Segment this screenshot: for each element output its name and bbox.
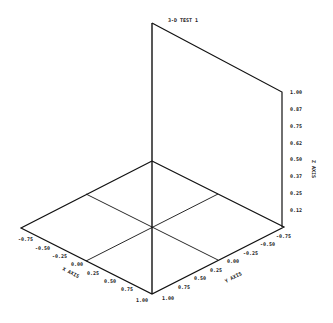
- svg-text:-0.75: -0.75: [18, 236, 33, 242]
- svg-text:0.75: 0.75: [290, 123, 302, 129]
- svg-text:0.25: 0.25: [210, 267, 222, 273]
- svg-text:1.00: 1.00: [136, 297, 148, 303]
- x-tick-labels: -0.75 -0.50 -0.25 0.00 0.25 0.50 0.75 1.…: [18, 236, 148, 303]
- svg-text:1.00: 1.00: [162, 295, 174, 301]
- 3d-plot: 3-D TEST 1 1.00 0.87 0.75 0.62 0.50 0.37…: [0, 0, 333, 323]
- svg-text:0.50: 0.50: [194, 275, 206, 281]
- svg-text:-0.50: -0.50: [35, 245, 50, 251]
- svg-text:0.37: 0.37: [290, 173, 302, 179]
- svg-text:-0.50: -0.50: [260, 241, 275, 247]
- svg-text:-0.25: -0.25: [243, 250, 258, 256]
- svg-text:0.12: 0.12: [290, 207, 302, 213]
- y-axis-label: Y AXIS: [224, 270, 243, 284]
- svg-text:0.00: 0.00: [227, 258, 239, 264]
- svg-text:1.00: 1.00: [290, 89, 302, 95]
- z-axis-label: Z AXIS: [311, 160, 317, 178]
- svg-text:0.62: 0.62: [290, 140, 302, 146]
- svg-text:0.50: 0.50: [104, 278, 116, 284]
- svg-text:0.87: 0.87: [290, 106, 302, 112]
- svg-text:0.50: 0.50: [290, 156, 302, 162]
- svg-text:0.25: 0.25: [290, 190, 302, 196]
- back-wall: [152, 23, 282, 227]
- svg-text:0.75: 0.75: [178, 284, 190, 290]
- z-tick-labels: 1.00 0.87 0.75 0.62 0.50 0.37 0.25 0.12: [290, 89, 302, 213]
- svg-text:-0.75: -0.75: [276, 233, 291, 239]
- x-axis-label: X AXIS: [62, 266, 81, 280]
- chart-title: 3-D TEST 1: [168, 17, 198, 23]
- svg-text:0.75: 0.75: [121, 286, 133, 292]
- svg-text:-0.25: -0.25: [52, 253, 67, 259]
- svg-text:0.25: 0.25: [87, 270, 99, 276]
- svg-text:0.00: 0.00: [71, 261, 83, 267]
- y-tick-labels: -0.75 -0.50 -0.25 0.00 0.25 0.50 0.75 1.…: [162, 233, 291, 301]
